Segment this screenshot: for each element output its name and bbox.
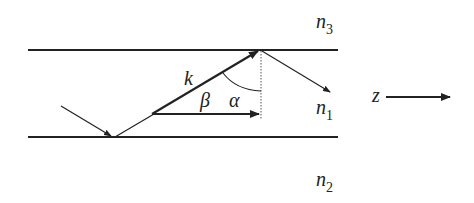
label-z: z (371, 84, 380, 106)
label-n3: n3 (316, 10, 333, 37)
label-alpha: α (229, 89, 240, 111)
incident-ray (61, 106, 111, 136)
label-n2: n2 (316, 168, 333, 195)
waveguide-diagram: n3 n1 n2 k β α z (0, 0, 474, 203)
label-beta: β (199, 89, 210, 112)
guided-ray (115, 114, 154, 137)
label-n1: n1 (316, 96, 333, 123)
label-k: k (184, 67, 194, 89)
reflected-ray (262, 51, 330, 92)
